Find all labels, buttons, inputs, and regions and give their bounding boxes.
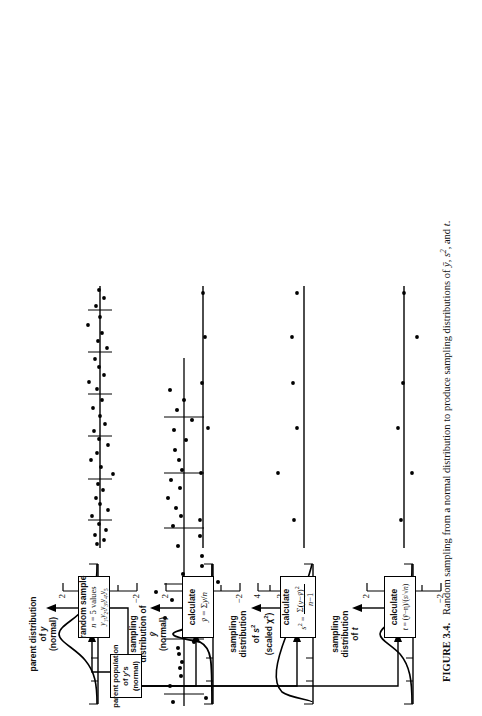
box-random-sample[interactable]: random sample n = 5 values y1,y2,y3,y4,y… xyxy=(78,576,110,638)
box-random-sample-line2: n = 5 values xyxy=(88,586,98,627)
box-ybar-line2: ȳ = Σy/n xyxy=(199,592,210,622)
tick-ybar-2: 2 xyxy=(160,594,170,612)
box-calculate-s2[interactable]: calculate s2 = Σ(y−ȳ)2 n−1 xyxy=(280,576,316,638)
box-parent-line2: of y's xyxy=(121,666,131,685)
box-s2-line1: calculate xyxy=(281,589,291,625)
box-t-line1: calculate xyxy=(389,589,399,625)
box-s2-denominator: n−1 xyxy=(305,584,315,614)
box-s2-numerator: Σ(y−ȳ)2 xyxy=(292,584,306,614)
tick-t-neg2: −2 xyxy=(435,594,445,616)
tick-parent-neg2: −2 xyxy=(131,594,141,616)
box-parent-population[interactable]: parent population of y's (normal) xyxy=(110,654,142,698)
strip-s2 xyxy=(276,286,304,548)
box-parent-line3: (normal) xyxy=(131,661,141,691)
tick-ybar-neg2: −2 xyxy=(234,594,244,616)
box-ybar-line1: calculate xyxy=(187,589,197,625)
box-parent-line1: parent population xyxy=(111,644,121,707)
figure-landscape-canvas: FIGURE 3.4. Random sampling from a norma… xyxy=(0,0,482,716)
box-random-sample-line3: y1,y2,y3,y4,y5 xyxy=(98,588,111,625)
tick-s2-4: 4 xyxy=(252,594,262,612)
tick-parent-2: 2 xyxy=(57,594,67,612)
tick-t-2: 2 xyxy=(361,594,371,612)
strip-parent xyxy=(86,286,115,548)
strip-ybar xyxy=(198,286,210,548)
box-random-sample-line1: random sample xyxy=(78,576,88,639)
box-t-formula: t = (ȳ−η)/(s/√n) xyxy=(401,584,411,631)
figure-root: FIGURE 3.4. Random sampling from a norma… xyxy=(0,0,482,716)
strip-t xyxy=(396,286,419,548)
box-calculate-t[interactable]: calculate t = (ȳ−η)/(s/√n) xyxy=(384,576,416,638)
box-s2-formula: s2 = Σ(y−ȳ)2 n−1 xyxy=(292,584,316,629)
box-calculate-ybar[interactable]: calculate ȳ = Σy/n xyxy=(182,576,214,638)
